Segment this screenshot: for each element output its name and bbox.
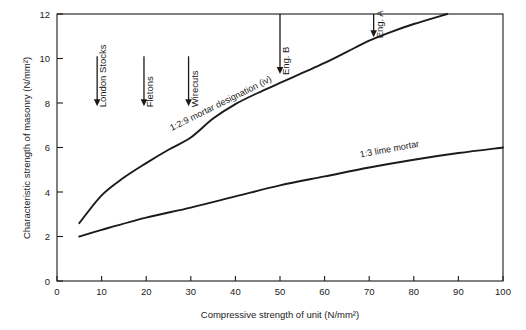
x-tick-label: 50: [275, 286, 286, 297]
y-tick-label: 0: [45, 276, 50, 287]
x-tick-label: 70: [364, 286, 375, 297]
annotation-label: Eng. A: [374, 10, 385, 39]
x-axis-title: Compressive strength of unit (N/mm²): [201, 309, 359, 320]
x-tick-label: 80: [409, 286, 420, 297]
chart-canvas: 0102030405060708090100 024681012 1:2:9 m…: [0, 0, 526, 330]
x-tick-label: 100: [495, 286, 511, 297]
x-tick-label: 10: [96, 286, 107, 297]
y-tick-label: 6: [45, 142, 50, 153]
x-tick-label: 90: [453, 286, 464, 297]
x-tick-label: 60: [319, 286, 330, 297]
annotation-label: London Stocks: [97, 44, 108, 107]
y-tick-label: 10: [39, 53, 50, 64]
annotation-label: Wirecuts: [189, 70, 200, 107]
x-tick-label: 40: [230, 286, 241, 297]
masonry-strength-chart: 0102030405060708090100 024681012 1:2:9 m…: [0, 0, 526, 330]
x-tick-label: 20: [141, 286, 152, 297]
annotation-label: Fletons: [144, 76, 155, 107]
x-tick-label: 30: [186, 286, 197, 297]
y-tick-label: 4: [45, 187, 50, 198]
x-tick-label: 0: [54, 286, 59, 297]
y-tick-label: 8: [45, 98, 50, 109]
annotation-label: Eng. B: [280, 47, 291, 76]
y-tick-label: 2: [45, 231, 50, 242]
y-axis-title: Characteristic strength of masonry (N/mm…: [21, 57, 32, 239]
y-tick-label: 12: [39, 9, 50, 20]
